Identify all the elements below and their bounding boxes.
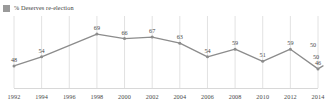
data-point-label: 69 <box>94 24 100 31</box>
data-point-label: 63 <box>177 33 183 40</box>
x-axis-tick-2006: 2006 <box>201 93 214 100</box>
x-axis-tick-2012: 2012 <box>284 93 297 100</box>
data-point-label: 66 <box>121 29 127 36</box>
x-axis-tick-1996: 1996 <box>63 93 76 100</box>
data-point-marker <box>289 48 292 51</box>
data-line <box>14 34 318 69</box>
x-axis-tick-2002: 2002 <box>146 93 159 100</box>
data-point-marker <box>151 36 154 39</box>
x-axis-tick-1994: 1994 <box>35 93 48 100</box>
legend-color-swatch <box>3 5 10 12</box>
data-point-marker <box>123 37 126 40</box>
data-point-label: 59 <box>287 39 293 46</box>
data-line-stub <box>318 66 323 69</box>
data-point-marker <box>178 42 181 45</box>
data-point-label: 48 <box>11 56 17 63</box>
plot-area: 48546966676354595159465050 <box>0 16 327 90</box>
x-axis-tick-1992: 1992 <box>8 93 21 100</box>
x-axis-tick-2014: 2014 <box>312 93 325 100</box>
x-axis-tick-2008: 2008 <box>229 93 242 100</box>
data-point-label: 54 <box>39 47 45 54</box>
gridlines <box>14 16 318 88</box>
x-axis-tick-2000: 2000 <box>118 93 131 100</box>
data-point-marker <box>40 55 43 58</box>
x-axis-tick-1998: 1998 <box>91 93 104 100</box>
x-axis-tick-2010: 2010 <box>256 93 269 100</box>
chart-legend: % Deserves re-election <box>3 3 74 13</box>
data-point-label: 54 <box>204 47 210 54</box>
data-point-marker <box>13 64 16 67</box>
data-point-label: 51 <box>260 51 266 58</box>
data-point-marker <box>261 60 264 63</box>
data-point-labels: 48546966676354595159465050 <box>11 24 321 66</box>
x-axis-tick-2004: 2004 <box>173 93 186 100</box>
x-axis-labels: 1992199419961998200020022004200620082010… <box>0 90 327 109</box>
chart-container: % Deserves re-election 48546966676354595… <box>0 0 327 109</box>
data-point-label-extra: 50 <box>310 41 316 48</box>
data-point-marker <box>234 48 237 51</box>
data-point-marker <box>95 33 98 36</box>
legend-label: % Deserves re-election <box>14 5 74 11</box>
data-point-label-extra: 50 <box>313 53 319 60</box>
data-point-markers <box>13 33 324 71</box>
data-point-label: 59 <box>232 39 238 46</box>
data-point-label: 67 <box>149 27 155 34</box>
data-point-marker <box>206 55 209 58</box>
